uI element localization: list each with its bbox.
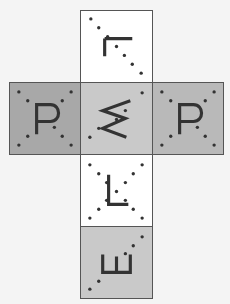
dot bbox=[212, 90, 215, 93]
face-top bbox=[80, 10, 153, 83]
dot bbox=[123, 54, 126, 57]
dot bbox=[169, 135, 172, 138]
dot bbox=[140, 163, 143, 166]
dot bbox=[204, 99, 207, 102]
dot bbox=[17, 143, 20, 146]
dot bbox=[115, 45, 118, 48]
dot bbox=[69, 90, 72, 93]
dot bbox=[140, 216, 143, 219]
dot bbox=[89, 17, 92, 20]
dot bbox=[140, 91, 143, 94]
dot bbox=[26, 135, 29, 138]
glyph-right bbox=[180, 105, 202, 135]
face-graphics bbox=[81, 83, 152, 154]
dot bbox=[105, 199, 108, 202]
cube-net bbox=[0, 0, 230, 304]
dot bbox=[53, 126, 56, 129]
face-bottom bbox=[80, 226, 153, 299]
dot bbox=[140, 235, 143, 238]
dot bbox=[160, 90, 163, 93]
dot bbox=[196, 126, 199, 129]
glyph-top bbox=[105, 39, 133, 57]
dot bbox=[97, 280, 100, 283]
face-graphics bbox=[10, 83, 80, 154]
dot bbox=[61, 99, 64, 102]
dot bbox=[124, 181, 127, 184]
dot bbox=[97, 172, 100, 175]
dot bbox=[132, 172, 135, 175]
dot bbox=[169, 99, 172, 102]
face-graphics bbox=[81, 227, 152, 298]
dot bbox=[106, 35, 109, 38]
dot bbox=[124, 109, 127, 112]
dot bbox=[26, 99, 29, 102]
dot bbox=[124, 252, 127, 255]
dot bbox=[132, 208, 135, 211]
face-right bbox=[152, 82, 224, 155]
dot bbox=[97, 127, 100, 130]
face-center bbox=[80, 82, 153, 155]
dot bbox=[17, 90, 20, 93]
dot bbox=[212, 143, 215, 146]
face-graphics bbox=[81, 11, 152, 82]
glyph-left bbox=[37, 105, 59, 135]
dot bbox=[88, 287, 91, 290]
dot bbox=[139, 71, 142, 74]
dot bbox=[69, 143, 72, 146]
dot bbox=[105, 181, 108, 184]
face-graphics bbox=[81, 155, 152, 226]
face-lower bbox=[80, 154, 153, 227]
glyph-bottom bbox=[103, 255, 131, 273]
dot bbox=[131, 63, 134, 66]
dot bbox=[160, 143, 163, 146]
dot bbox=[204, 135, 207, 138]
dot bbox=[124, 199, 127, 202]
dot bbox=[88, 216, 91, 219]
dot bbox=[61, 135, 64, 138]
dot bbox=[115, 190, 118, 193]
dot bbox=[88, 136, 91, 139]
dot bbox=[97, 208, 100, 211]
dot bbox=[97, 26, 100, 29]
face-graphics bbox=[153, 83, 223, 154]
dot bbox=[115, 118, 118, 121]
dot bbox=[132, 244, 135, 247]
face-left bbox=[9, 82, 81, 155]
dot bbox=[88, 163, 91, 166]
